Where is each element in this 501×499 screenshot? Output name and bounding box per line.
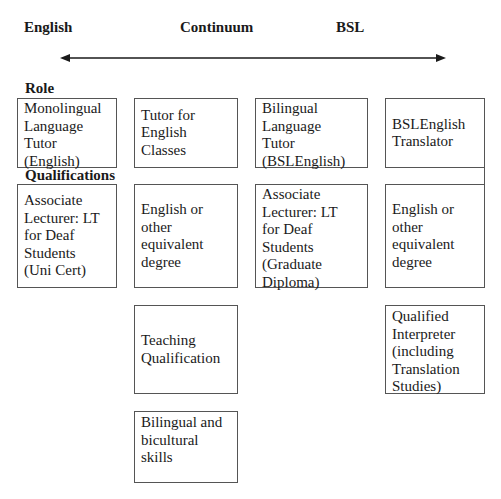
box-line: English or: [392, 201, 478, 219]
box-line: Bilingual and: [141, 414, 231, 432]
box-line: Students: [262, 239, 361, 257]
continuum-arrow: [58, 51, 448, 65]
box-role-bilingual-tutor: Bilingual Language Tutor (BSLEnglish): [255, 98, 368, 168]
box-line: Diploma): [262, 274, 361, 292]
box-line: Lecturer: LT: [24, 210, 110, 228]
box-qual-bilingual-skills: Bilingual and bicultural skills: [134, 411, 238, 483]
box-line: degree: [392, 254, 478, 272]
box-line: for Deaf: [262, 221, 361, 239]
heading-bsl: BSL: [336, 19, 364, 36]
box-line: other: [141, 219, 231, 237]
heading-continuum: Continuum: [180, 19, 253, 36]
box-line: Associate: [262, 186, 361, 204]
box-line: Bilingual: [262, 100, 361, 118]
arrowhead-left-icon: [60, 54, 70, 62]
box-line: English: [141, 124, 231, 142]
box-line: Qualified: [392, 308, 478, 326]
box-line: bicultural: [141, 432, 231, 450]
box-qual-associate-lecturer-unicert: Associate Lecturer: LT for Deaf Students…: [17, 184, 117, 288]
box-line: (BSLEnglish): [262, 153, 361, 171]
box-line: Studies): [392, 378, 478, 396]
box-role-tutor-english-classes: Tutor for English Classes: [134, 98, 238, 168]
box-qual-interpreter: Qualified Interpreter (including Transla…: [385, 305, 485, 394]
box-line: Language: [262, 118, 361, 136]
box-qual-english-degree-col2: English or other equivalent degree: [134, 184, 238, 288]
box-line: (Uni Cert): [24, 262, 110, 280]
box-line: (Graduate: [262, 256, 361, 274]
box-line: BSLEnglish: [392, 116, 478, 134]
box-line: equivalent: [392, 236, 478, 254]
box-line: Interpreter: [392, 326, 478, 344]
box-line: Lecturer: LT: [262, 204, 361, 222]
box-qual-english-degree-col4: English or other equivalent degree: [385, 184, 485, 288]
box-line: Translation: [392, 361, 478, 379]
box-line: other: [392, 219, 478, 237]
box-line: Tutor: [262, 135, 361, 153]
box-line: degree: [141, 254, 231, 272]
box-line: Language: [24, 118, 110, 136]
box-qual-teaching: Teaching Qualification: [134, 305, 238, 394]
box-line: (including: [392, 343, 478, 361]
box-line: Qualification: [141, 350, 231, 368]
heading-english: English: [24, 19, 72, 36]
box-line: Tutor: [24, 135, 110, 153]
box-line: Monolingual: [24, 100, 110, 118]
box-line: Students: [24, 245, 110, 263]
box-line: skills: [141, 449, 231, 467]
box-line: Classes: [141, 142, 231, 160]
box-line: (English): [24, 153, 110, 171]
box-line: Teaching: [141, 332, 231, 350]
box-qual-associate-lecturer-graddip: Associate Lecturer: LT for Deaf Students…: [255, 184, 368, 288]
section-label-role: Role: [25, 80, 54, 97]
arrowhead-right-icon: [436, 54, 446, 62]
box-line: Associate: [24, 192, 110, 210]
box-line: Tutor for: [141, 107, 231, 125]
connector-line: [484, 167, 485, 185]
box-line: for Deaf: [24, 227, 110, 245]
box-role-monolingual-tutor: Monolingual Language Tutor (English): [17, 98, 117, 168]
box-line: English or: [141, 201, 231, 219]
box-line: Translator: [392, 133, 478, 151]
box-line: equivalent: [141, 236, 231, 254]
box-role-translator: BSLEnglish Translator: [385, 98, 485, 168]
